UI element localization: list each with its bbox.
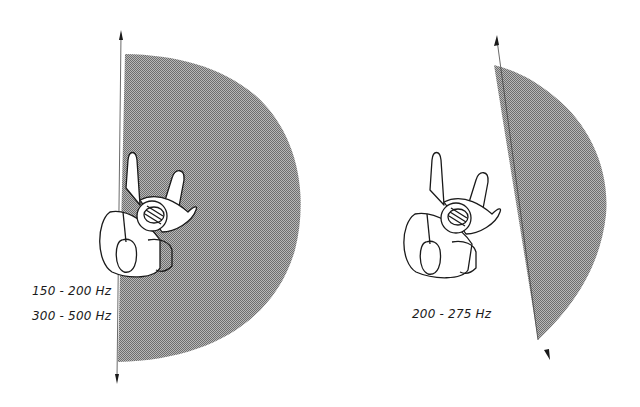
right-radiation-pattern [494, 65, 607, 340]
right-arrow-down-icon [544, 349, 550, 360]
right-arrow-up-icon [494, 35, 499, 46]
left-arrow-up-icon [119, 30, 123, 40]
left-arrow-down-icon [115, 374, 119, 384]
left-freq-label-2: 300 - 500 Hz [32, 309, 111, 323]
left-figure [100, 30, 301, 384]
left-freq-label-1: 150 - 200 Hz [32, 284, 111, 298]
right-horn-player-icon [404, 153, 501, 278]
right-freq-label: 200 - 275 Hz [412, 307, 491, 321]
diagram-canvas [0, 0, 640, 407]
